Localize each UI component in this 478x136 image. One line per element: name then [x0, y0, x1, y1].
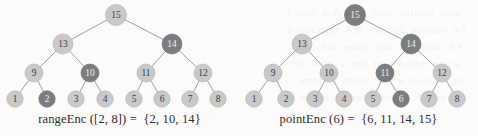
tree-node-13[interactable]: 13 — [292, 34, 312, 54]
node-label: 5 — [371, 94, 376, 104]
tree-node-10[interactable]: 10 — [81, 64, 99, 82]
tree-node-2[interactable]: 2 — [39, 91, 55, 107]
tree-node-1[interactable]: 1 — [246, 91, 262, 107]
point-encoding-caption: pointEnc (6) = {6, 11, 14, 15} — [239, 112, 478, 127]
tree-node-14[interactable]: 14 — [401, 34, 421, 54]
node-label: 12 — [437, 68, 447, 78]
tree-node-5[interactable]: 5 — [365, 91, 381, 107]
tree-node-3[interactable]: 3 — [307, 91, 323, 107]
node-label: 8 — [216, 94, 221, 104]
tree-node-12[interactable]: 12 — [433, 64, 451, 82]
node-label: 15 — [111, 10, 121, 20]
node-label: 9 — [271, 68, 276, 78]
node-label: 2 — [284, 94, 289, 104]
tree-node-10[interactable]: 10 — [320, 64, 338, 82]
tree-node-9[interactable]: 9 — [264, 64, 282, 82]
tree-node-6[interactable]: 6 — [154, 91, 170, 107]
tree-node-11[interactable]: 11 — [137, 64, 155, 82]
node-label: 7 — [427, 94, 432, 104]
range-encoding-panel: 151314910111212345678 rangeEnc ([2, 8]) … — [0, 0, 239, 136]
range-encoding-caption: rangeEnc ([2, 8]) = {2, 10, 14} — [0, 112, 239, 127]
point-encoding-panel: 151314910111212345678 pointEnc (6) = {6,… — [239, 0, 478, 136]
tree-node-7[interactable]: 7 — [421, 91, 437, 107]
tree-node-4[interactable]: 4 — [97, 91, 113, 107]
node-label: 13 — [297, 39, 307, 49]
tree-node-6[interactable]: 6 — [393, 91, 409, 107]
node-label: 2 — [45, 94, 50, 104]
node-label: 9 — [32, 68, 37, 78]
node-label: 7 — [188, 94, 193, 104]
node-label: 11 — [141, 68, 150, 78]
tree-node-5[interactable]: 5 — [126, 91, 142, 107]
tree-node-15[interactable]: 15 — [106, 5, 127, 26]
node-label: 5 — [132, 94, 137, 104]
tree-node-7[interactable]: 7 — [182, 91, 198, 107]
node-label: 6 — [399, 94, 404, 104]
node-label: 3 — [313, 94, 318, 104]
node-label: 8 — [455, 94, 460, 104]
tree-node-8[interactable]: 8 — [449, 91, 465, 107]
tree-node-12[interactable]: 12 — [194, 64, 212, 82]
tree-node-15[interactable]: 15 — [345, 5, 366, 26]
node-label: 1 — [13, 94, 18, 104]
point-encoding-tree: 151314910111212345678 — [239, 0, 478, 112]
tree-node-3[interactable]: 3 — [68, 91, 84, 107]
tree-node-11[interactable]: 11 — [376, 64, 394, 82]
node-label: 11 — [380, 68, 389, 78]
node-label: 10 — [324, 68, 334, 78]
range-encoding-tree: 151314910111212345678 — [0, 0, 239, 112]
tree-node-13[interactable]: 13 — [53, 34, 73, 54]
node-label: 4 — [342, 94, 347, 104]
node-label: 3 — [74, 94, 79, 104]
node-label: 1 — [252, 94, 257, 104]
node-label: 14 — [406, 39, 416, 49]
tree-node-8[interactable]: 8 — [210, 91, 226, 107]
tree-node-14[interactable]: 14 — [162, 34, 182, 54]
node-label: 14 — [167, 39, 177, 49]
node-label: 12 — [198, 68, 208, 78]
segment-tree-figure: ansi anoting hast seaf A.A ragn f f e nu… — [0, 0, 478, 136]
node-label: 6 — [160, 94, 165, 104]
tree-node-2[interactable]: 2 — [278, 91, 294, 107]
tree-node-4[interactable]: 4 — [336, 91, 352, 107]
node-label: 4 — [103, 94, 108, 104]
tree-node-1[interactable]: 1 — [7, 91, 23, 107]
node-label: 13 — [58, 39, 68, 49]
node-label: 15 — [350, 10, 360, 20]
node-label: 10 — [85, 68, 95, 78]
tree-node-9[interactable]: 9 — [25, 64, 43, 82]
